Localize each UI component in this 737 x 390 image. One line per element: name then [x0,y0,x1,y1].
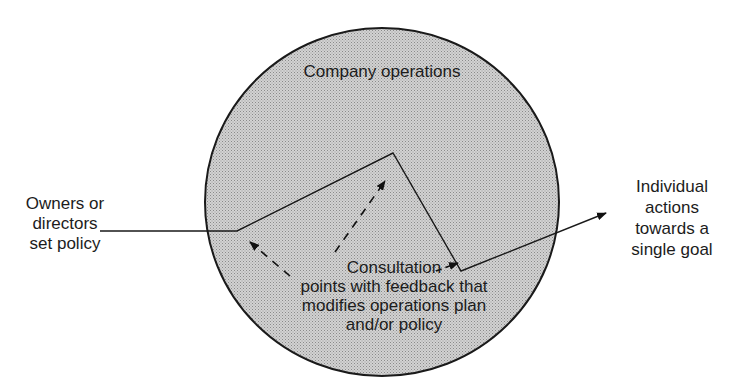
center-label-line: Consultation [293,258,495,277]
right-label-line: single goal [612,239,732,260]
center-label-line: and/or policy [293,315,495,334]
consultation-points-label: Consultation points with feedback that m… [293,258,495,334]
owners-directors-label: Owners or directors set policy [14,194,116,254]
center-label-line: points with feedback that [293,277,495,296]
right-label-line: towards a [612,218,732,239]
right-label-line: actions [612,197,732,218]
individual-actions-label: Individual actions towards a single goal [612,176,732,260]
left-label-line: set policy [14,234,116,254]
left-label-line: directors [14,214,116,234]
left-label-line: Owners or [14,194,116,214]
right-label-line: Individual [612,176,732,197]
company-operations-title: Company operations [262,62,502,82]
center-label-line: modifies operations plan [293,296,495,315]
